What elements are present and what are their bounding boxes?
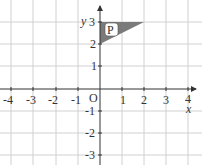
x-tick-label: 3 — [163, 93, 169, 107]
y-tick-label: 3 — [89, 15, 95, 29]
x-axis-label: x — [185, 102, 192, 116]
triangle-p-label: P — [107, 23, 114, 37]
x-tick-label: -4 — [3, 93, 13, 107]
y-axis-label: y — [80, 14, 87, 28]
x-tick-label: -2 — [48, 93, 58, 107]
y-tick-label: -3 — [85, 148, 95, 162]
y-tick-label: -2 — [85, 126, 95, 140]
y-tick-label: 2 — [90, 37, 96, 51]
x-tick-label: -1 — [71, 93, 81, 107]
y-tick-label: -1 — [85, 104, 95, 118]
y-tick-label: 1 — [91, 59, 97, 73]
x-tick-label: -3 — [26, 93, 36, 107]
origin-label: O — [89, 91, 98, 105]
x-tick-label: 1 — [120, 93, 126, 107]
x-tick-label: 2 — [141, 93, 147, 107]
coordinate-grid: P -4 -3 -2 -1 O 1 2 3 4 x y 3 2 1 -1 -2 … — [0, 0, 202, 165]
